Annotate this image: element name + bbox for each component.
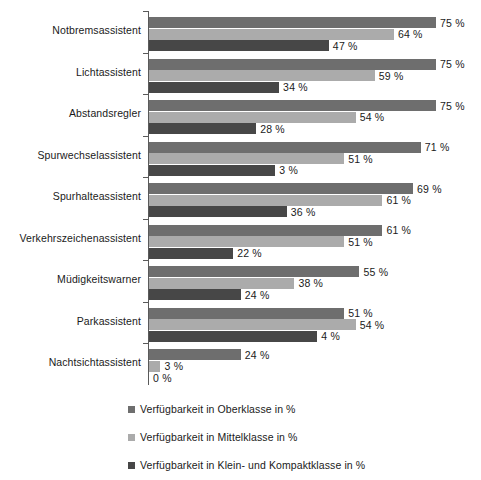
bar-row: 51 % — [149, 153, 481, 164]
bar — [149, 153, 344, 164]
bar — [149, 206, 287, 217]
bar-row: 64 % — [149, 29, 481, 40]
bar-value-label: 28 % — [260, 123, 285, 134]
category-label: Spurhalteassistent — [0, 177, 141, 215]
legend-item[interactable]: Verfügbarkeit in Mittelklasse in % — [128, 430, 297, 444]
legend-label: Verfügbarkeit in Mittelklasse in % — [140, 431, 297, 443]
bar-group: Spurwechselassistent71 %51 %3 % — [0, 136, 481, 174]
bar — [149, 70, 375, 81]
bar-value-label: 75 % — [440, 100, 465, 111]
category-label: Müdigkeitswarner — [0, 260, 141, 298]
bar-value-label: 54 % — [360, 319, 385, 330]
category-label: Spurwechselassistent — [0, 136, 141, 174]
legend-swatch-mittelklasse — [128, 434, 135, 441]
bar — [149, 331, 317, 342]
bar — [149, 266, 359, 277]
bar-chart: Notbremsassistent75 %64 %47 %Lichtassist… — [0, 0, 481, 480]
bar-group: Parkassistent51 %54 %4 % — [0, 302, 481, 340]
bar-row: 3 % — [149, 361, 481, 372]
bar-row: 47 % — [149, 40, 481, 51]
bar-value-label: 51 % — [348, 236, 373, 247]
bar-row: 69 % — [149, 183, 481, 194]
bar-row: 0 % — [149, 372, 481, 383]
bar-value-label: 47 % — [333, 40, 358, 51]
bar — [149, 142, 421, 153]
bar-value-label: 75 % — [440, 17, 465, 28]
bar-row: 59 % — [149, 70, 481, 81]
bar-row: 51 % — [149, 236, 481, 247]
bar-row: 61 % — [149, 225, 481, 236]
bar — [149, 82, 279, 93]
bar — [149, 112, 356, 123]
legend-swatch-oberklasse — [128, 406, 135, 413]
bar-row: 71 % — [149, 142, 481, 153]
bar — [149, 40, 329, 51]
bar-row: 3 % — [149, 165, 481, 176]
bar-row: 34 % — [149, 82, 481, 93]
bar — [149, 236, 344, 247]
bar-group: Nachtsichtassistent24 %3 %0 % — [0, 343, 481, 381]
bar-value-label: 55 % — [363, 266, 388, 277]
bar — [149, 183, 413, 194]
bar-row: 24 % — [149, 349, 481, 360]
category-label: Abstandsregler — [0, 94, 141, 132]
bar-row: 51 % — [149, 308, 481, 319]
bar-row: 55 % — [149, 266, 481, 277]
bar-value-label: 24 % — [245, 289, 270, 300]
bar-value-label: 4 % — [321, 331, 340, 342]
bar-row: 36 % — [149, 206, 481, 217]
bar-row: 54 % — [149, 319, 481, 330]
bar-group: Lichtassistent75 %59 %34 % — [0, 53, 481, 91]
bar — [149, 123, 256, 134]
category-label: Notbremsassistent — [0, 11, 141, 49]
bar-row: 24 % — [149, 289, 481, 300]
bar-value-label: 24 % — [245, 349, 270, 360]
plot-area: Notbremsassistent75 %64 %47 %Lichtassist… — [0, 0, 481, 392]
legend-swatch-kleinklasse — [128, 462, 135, 469]
bar-row: 75 % — [149, 59, 481, 70]
bar — [149, 100, 436, 111]
bar — [149, 308, 344, 319]
bar-value-label: 22 % — [237, 248, 262, 259]
bar-group: Müdigkeitswarner55 %38 %24 % — [0, 260, 481, 298]
legend-label: Verfügbarkeit in Oberklasse in % — [140, 403, 296, 415]
bar-value-label: 51 % — [348, 308, 373, 319]
bar — [149, 17, 436, 28]
bar-row: 38 % — [149, 278, 481, 289]
bar — [149, 195, 382, 206]
bar — [149, 361, 160, 372]
bar — [149, 59, 436, 70]
bar — [149, 225, 382, 236]
bar-value-label: 64 % — [398, 29, 423, 40]
bar-value-label: 3 % — [279, 165, 298, 176]
bar-value-label: 51 % — [348, 153, 373, 164]
legend-item[interactable]: Verfügbarkeit in Klein- und Kompaktklass… — [128, 458, 365, 472]
bar-value-label: 54 % — [360, 112, 385, 123]
bar-row: 75 % — [149, 100, 481, 111]
bar-value-label: 61 % — [386, 195, 411, 206]
bar-value-label: 71 % — [425, 142, 450, 153]
bar-row: 61 % — [149, 195, 481, 206]
bar-value-label: 36 % — [291, 206, 316, 217]
bar-value-label: 38 % — [298, 278, 323, 289]
bar — [149, 29, 394, 40]
bar-row: 54 % — [149, 112, 481, 123]
bar — [149, 319, 356, 330]
legend-item[interactable]: Verfügbarkeit in Oberklasse in % — [128, 402, 296, 416]
bar-group: Spurhalteassistent69 %61 %36 % — [0, 177, 481, 215]
bar-value-label: 0 % — [153, 372, 172, 383]
bar-value-label: 69 % — [417, 183, 442, 194]
category-label: Parkassistent — [0, 302, 141, 340]
bar — [149, 289, 241, 300]
category-label: Lichtassistent — [0, 53, 141, 91]
bar-row: 22 % — [149, 248, 481, 259]
bar-value-label: 59 % — [379, 70, 404, 81]
bar — [149, 248, 233, 259]
bar-value-label: 61 % — [386, 225, 411, 236]
bar-row: 75 % — [149, 17, 481, 28]
bar-value-label: 34 % — [283, 82, 308, 93]
bar-row: 28 % — [149, 123, 481, 134]
bar-value-label: 3 % — [164, 361, 183, 372]
bar-group: Abstandsregler75 %54 %28 % — [0, 94, 481, 132]
bar-value-label: 75 % — [440, 59, 465, 70]
